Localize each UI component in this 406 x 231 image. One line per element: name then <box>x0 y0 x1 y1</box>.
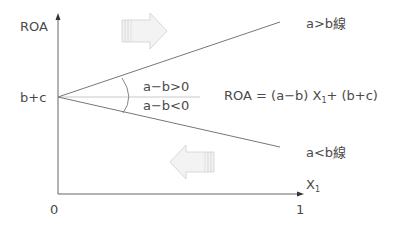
y-axis-arrowhead-icon <box>56 13 61 20</box>
diagram-canvas <box>0 0 406 231</box>
intercept-label: b+c <box>20 91 46 104</box>
condition-positive: a−b>0 <box>143 80 189 93</box>
condition-negative: a−b<0 <box>143 99 189 112</box>
angle-arc <box>122 78 129 113</box>
equation-lhs: ROA = (a−b) X <box>224 88 321 103</box>
x-axis-label-main: X <box>306 177 315 192</box>
lower-line-label: a<b線 <box>306 146 346 159</box>
x-axis-label: X1 <box>306 178 320 194</box>
equation-rhs: + (b+c) <box>326 88 377 103</box>
x-axis-label-subscript: 1 <box>315 185 320 194</box>
y-axis-label: ROA <box>20 20 48 33</box>
x-end-label: 1 <box>296 203 304 216</box>
upper-line-label: a>b線 <box>306 17 346 30</box>
equation: ROA = (a−b) X1+ (b+c) <box>224 89 378 105</box>
x-axis-arrowhead-icon <box>297 192 304 197</box>
origin-label: 0 <box>50 203 58 216</box>
left-arrow-icon <box>170 145 214 179</box>
right-arrow-icon <box>122 13 167 49</box>
